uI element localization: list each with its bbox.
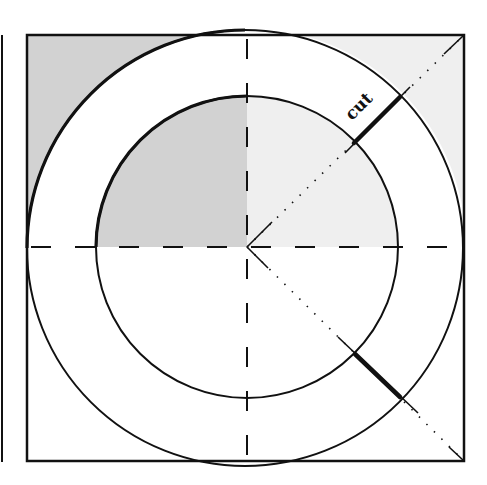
ring-cut-diagram: cut [0,0,487,485]
diagonal-stub-corner-bottom [449,447,464,461]
diagonal-stub-center-down [247,247,268,268]
cut-mark-lower [355,354,400,397]
